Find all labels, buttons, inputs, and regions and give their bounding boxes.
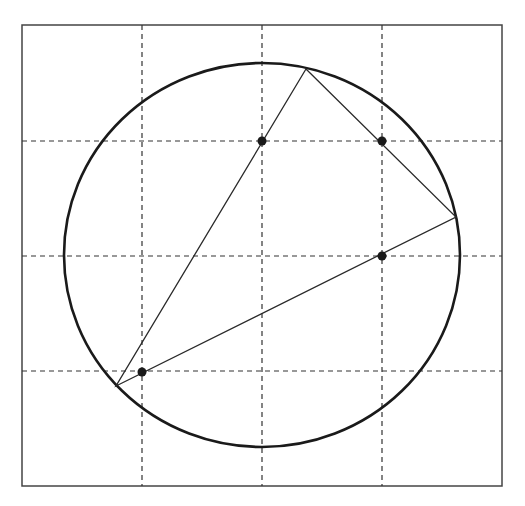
- point-2-dot: [378, 137, 387, 146]
- geometry-diagram: [0, 0, 525, 506]
- dashed-grid: [22, 25, 502, 486]
- point-3-dot: [378, 252, 387, 261]
- point-4-dot: [138, 368, 147, 377]
- inscribed-triangle: [116, 69, 456, 386]
- point-1-dot: [258, 137, 267, 146]
